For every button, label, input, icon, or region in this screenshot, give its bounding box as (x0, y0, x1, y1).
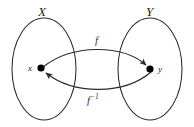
point-label-y: y (158, 65, 162, 74)
arrow-label-f: f (95, 33, 98, 46)
function-inverse-diagram: X Y x y f f−1 (0, 0, 194, 127)
arrow-label-f-base: f (95, 34, 98, 46)
set-label-domain: X (38, 5, 46, 18)
arrow-f-inverse-curve (46, 72, 151, 89)
arrow-f-curve (43, 49, 146, 67)
set-label-codomain: Y (146, 5, 153, 18)
point-dot-y (146, 65, 153, 72)
point-dot-x (37, 64, 44, 71)
arrow-label-f-inverse-superscript: −1 (90, 92, 99, 101)
point-label-x: x (28, 64, 32, 73)
arrow-label-f-inverse: f−1 (87, 93, 99, 106)
